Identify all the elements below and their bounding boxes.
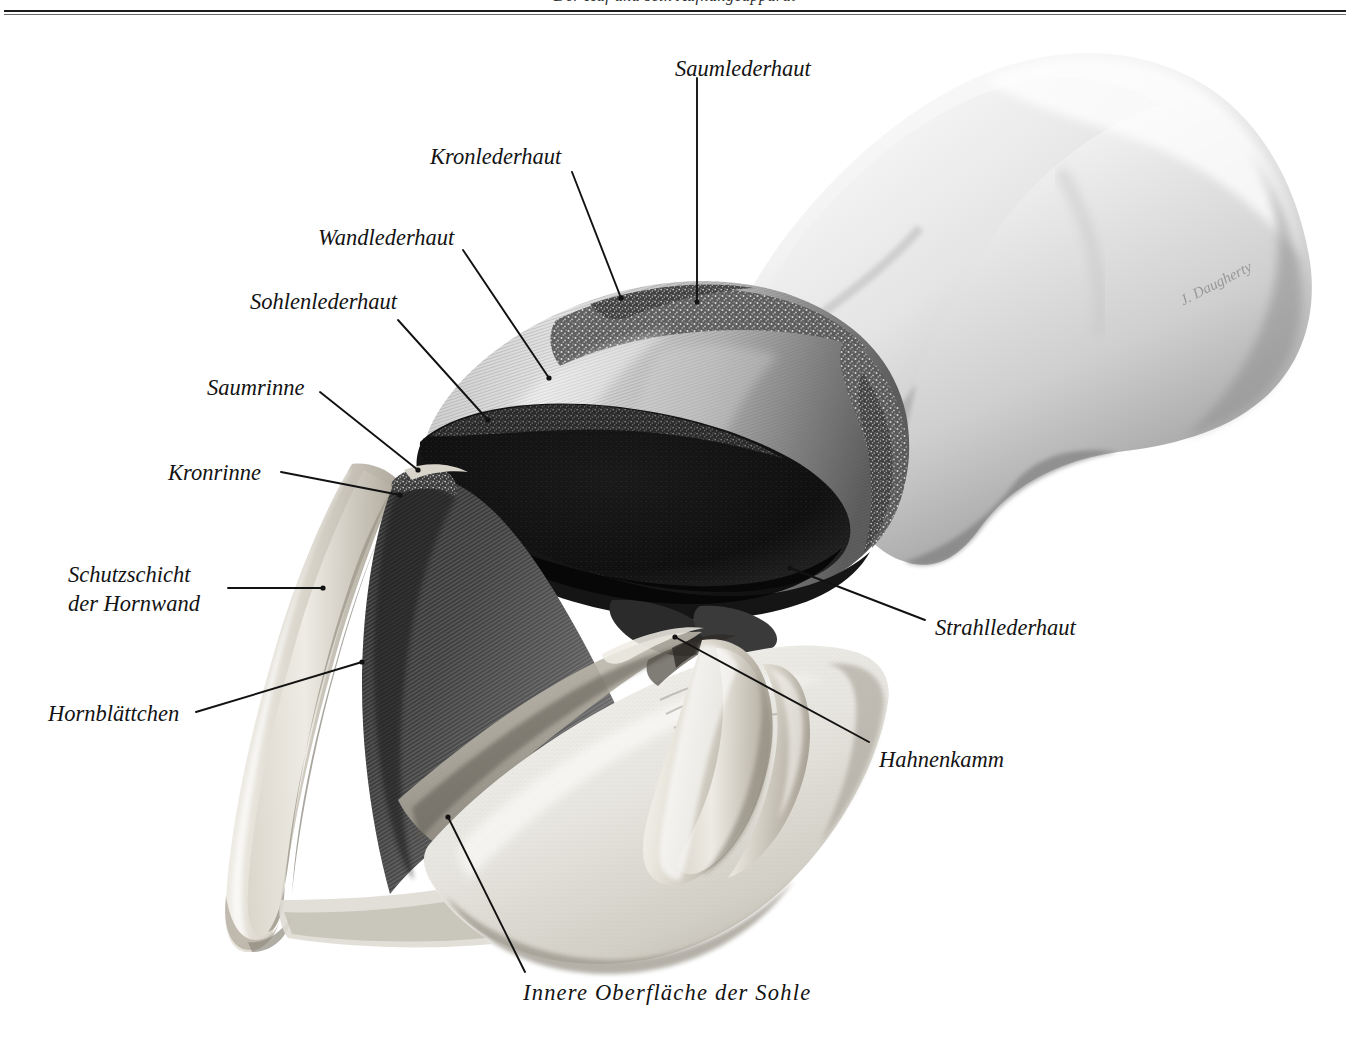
- label-strahllederhaut: Strahllederhaut: [935, 614, 1076, 643]
- leader-hahnenkamm: [675, 637, 869, 742]
- leader-kronrinne: [281, 472, 400, 495]
- label-schutzschicht: Schutzschicht der Hornwand: [68, 561, 200, 619]
- leader-innere-sohle-dot: [445, 814, 450, 819]
- leader-wandlederhaut-dot: [546, 375, 551, 380]
- leader-sohlenlederhaut: [398, 320, 488, 420]
- leader-lines: [0, 0, 1350, 1053]
- leader-hahnenkamm-dot: [672, 634, 677, 639]
- label-innere-sohle: Innere Oberfläche der Sohle: [523, 979, 811, 1008]
- leader-hornblaettchen: [196, 662, 362, 712]
- leader-saumrinne: [320, 392, 418, 470]
- leader-kronlederhaut-dot: [618, 295, 623, 300]
- leader-sohlenlederhaut-dot: [485, 417, 490, 422]
- label-saumlederhaut: Saumlederhaut: [675, 55, 811, 84]
- leader-kronrinne-dot: [397, 492, 402, 497]
- label-saumrinne: Saumrinne: [207, 374, 305, 403]
- leader-kronlederhaut: [572, 172, 621, 298]
- leader-hornblaettchen-dot: [359, 659, 364, 664]
- figure-page: Der Huf und sein Aufhängeapparat: [0, 0, 1350, 1053]
- label-wandlederhaut: Wandlederhaut: [318, 224, 454, 253]
- leader-wandlederhaut: [463, 250, 549, 378]
- leader-schutzschicht-dot: [320, 585, 325, 590]
- label-kronrinne: Kronrinne: [168, 459, 261, 488]
- label-kronlederhaut: Kronlederhaut: [430, 143, 561, 172]
- leader-saumlederhaut-dot: [694, 299, 699, 304]
- leader-strahllederhaut-dot: [787, 565, 792, 570]
- leader-strahllederhaut: [790, 568, 925, 620]
- leader-saumrinne-dot: [415, 467, 420, 472]
- label-hahnenkamm: Hahnenkamm: [879, 746, 1004, 775]
- label-sohlenlederhaut: Sohlenlederhaut: [250, 288, 397, 317]
- leader-innere-sohle: [448, 817, 525, 972]
- label-hornblaettchen: Hornblättchen: [48, 700, 179, 729]
